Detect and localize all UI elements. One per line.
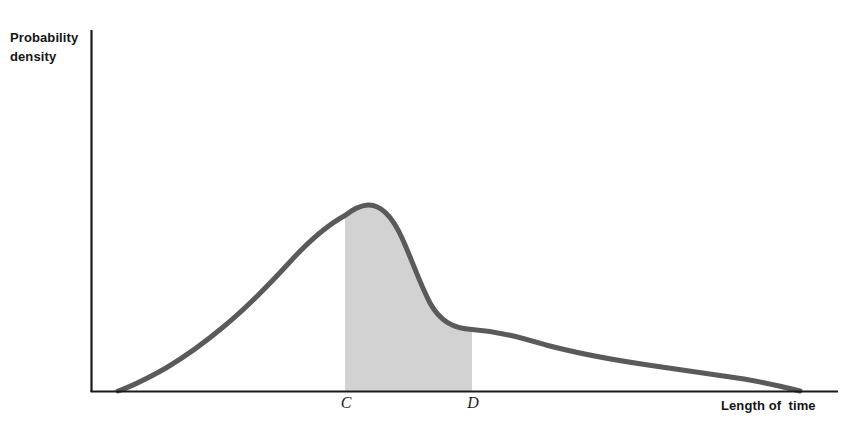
chart-figure: Probability density Length of time C D: [0, 0, 854, 427]
x-axis-label: Length of time: [721, 396, 816, 415]
shaded-region-c-to-d: [345, 205, 472, 392]
x-tick-label-c: C: [334, 394, 358, 412]
y-axis-label: Probability density: [10, 28, 90, 66]
density-curve-plot: [0, 0, 854, 427]
x-tick-label-d: D: [461, 394, 485, 412]
